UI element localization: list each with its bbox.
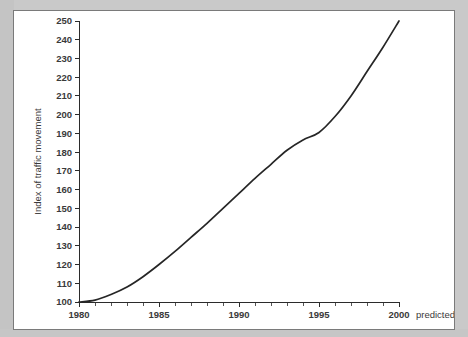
y-axis-tick-label: 110 bbox=[57, 278, 72, 289]
y-axis-tick-label: 230 bbox=[56, 53, 72, 64]
y-axis-tick-label: 200 bbox=[56, 109, 72, 120]
y-axis-tick-label: 130 bbox=[56, 240, 72, 251]
plot-area: 1001101201301401501601701801902002102202… bbox=[14, 11, 455, 330]
traffic-index-line bbox=[79, 21, 399, 302]
page-background-left-band bbox=[0, 0, 14, 337]
x-axis-tick-label: 1980 bbox=[68, 309, 89, 320]
y-axis-tick-label: 250 bbox=[56, 15, 72, 26]
y-axis-tick-label: 180 bbox=[56, 147, 72, 158]
x-axis-tick-label: 1995 bbox=[308, 309, 330, 320]
x-axis-title: Year bbox=[229, 329, 248, 330]
y-axis-tick-label-group: 1001101201301401501601701801902002102202… bbox=[56, 15, 72, 307]
y-axis-tick-label: 150 bbox=[56, 203, 72, 214]
y-axis-tick-label: 240 bbox=[56, 34, 72, 45]
x-axis-tick-label-group: 19801985199019952000 bbox=[68, 309, 409, 320]
y-axis-tick-label: 160 bbox=[56, 184, 72, 195]
y-axis-tick-label: 120 bbox=[56, 259, 72, 270]
y-axis-tick-label: 210 bbox=[56, 90, 72, 101]
y-axis-title: Index of traffic movement bbox=[32, 108, 43, 215]
x-axis-tick-label: 1990 bbox=[228, 309, 249, 320]
chart-svg: 1001101201301401501601701801902002102202… bbox=[14, 11, 455, 330]
chart-panel: 1001101201301401501601701801902002102202… bbox=[13, 10, 455, 330]
y-axis-tick-label: 190 bbox=[56, 128, 72, 139]
page-background-bottom-band bbox=[0, 329, 468, 337]
y-axis-tick-label: 170 bbox=[56, 165, 72, 176]
page-root: 1001101201301401501601701801902002102202… bbox=[0, 0, 468, 337]
predicted-annotation: predicted bbox=[416, 309, 455, 320]
x-axis-tick-label: 1985 bbox=[148, 309, 170, 320]
y-axis-tick-label: 220 bbox=[56, 72, 72, 83]
y-axis-tick-label: 140 bbox=[56, 221, 72, 232]
x-axis-tick-label: 2000 bbox=[388, 309, 409, 320]
y-axis-tick-label: 100 bbox=[56, 296, 72, 307]
y-axis-tick-group bbox=[75, 21, 79, 302]
